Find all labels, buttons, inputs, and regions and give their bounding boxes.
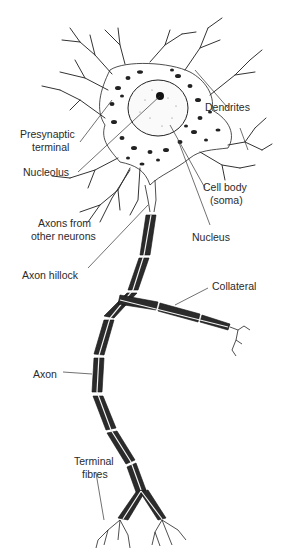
label-axon: Axon [33,368,57,380]
label-nucleus: Nucleus [192,231,230,243]
label-collateral: Collateral [212,280,256,292]
label-terminal-fibres-line1: Terminal [74,455,114,467]
label-nucleolus: Nucleolus [23,166,69,178]
afferent-axon-1 [130,168,140,215]
label-axons-from-other-line2: other neurons [31,230,96,242]
label-cell-body-line1: Cell body [203,181,247,193]
leader-lines [63,70,248,520]
nucleus-shape [128,80,188,136]
label-cell-body-line2: (soma) [210,194,243,206]
label-axons-from-other-line1: Axons from [38,217,91,229]
label-dendrites: Dendrites [205,101,250,113]
axon-myelin [92,215,250,520]
label-terminal-fibres-line2: fibres [82,468,108,480]
terminal-fibres [96,520,186,548]
label-presynaptic-terminal-line2: terminal [32,141,69,153]
label-presynaptic-terminal-line1: Presynaptic [20,128,75,140]
neuron-diagram: Dendrites Presynaptic terminal Nucleolus… [0,0,281,560]
label-axon-hillock: Axon hillock [22,269,78,281]
afferent-axon-2 [100,170,130,222]
